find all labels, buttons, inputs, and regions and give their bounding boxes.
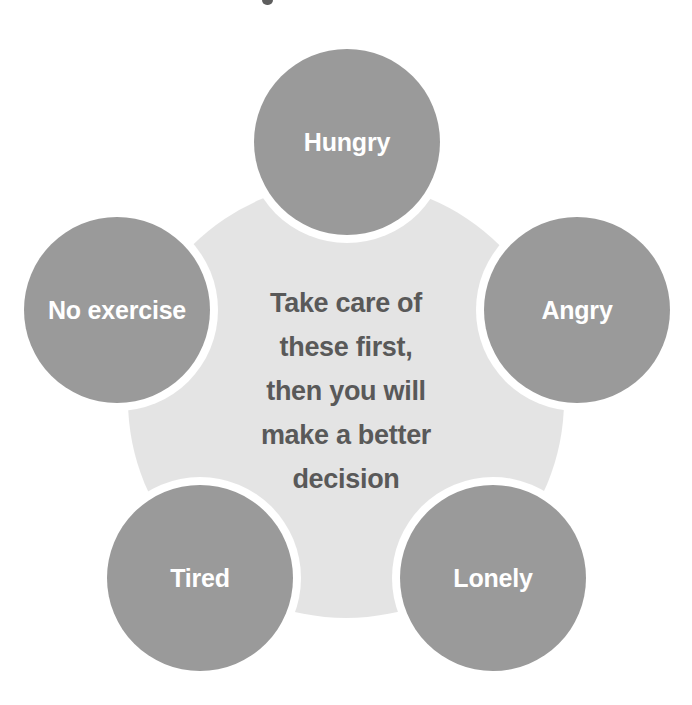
node-label-hungry: Hungry	[304, 128, 391, 156]
halt-diagram-canvas: Hungry Angry Lonely Tired No exercise Ta…	[0, 0, 692, 705]
center-message-line-3: then you will	[266, 376, 426, 406]
node-label-lonely: Lonely	[453, 564, 533, 592]
node-label-no-exercise: No exercise	[48, 296, 186, 324]
center-message-line-1: Take care of	[270, 288, 423, 318]
node-label-angry: Angry	[541, 296, 613, 324]
center-message-line-4: make a better	[261, 420, 432, 450]
node-label-tired: Tired	[170, 564, 230, 592]
center-message-line-5: decision	[292, 464, 399, 494]
center-message-line-2: these first,	[280, 332, 413, 362]
halt-diagram: Hungry Angry Lonely Tired No exercise Ta…	[0, 0, 692, 705]
